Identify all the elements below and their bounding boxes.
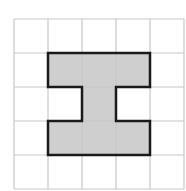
shaded-cell [48, 53, 82, 87]
shaded-cell [82, 121, 116, 155]
grid-diagram [0, 0, 186, 191]
shaded-cell [48, 121, 82, 155]
shaded-cells [48, 53, 150, 155]
shaded-cell [82, 53, 116, 87]
shaded-cell [82, 87, 116, 121]
shaded-cell [116, 121, 150, 155]
shaded-cell [116, 53, 150, 87]
